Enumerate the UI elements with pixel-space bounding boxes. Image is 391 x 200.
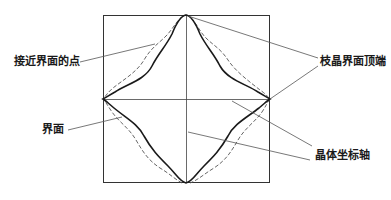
leader-dendrite-tip-right (270, 66, 318, 99)
dendrite-diagram (0, 0, 391, 200)
label-near-interface-point: 接近界面的点 (14, 56, 80, 68)
leader-dendrite-tip-top (188, 16, 318, 58)
leader-crystal-axis-1 (232, 101, 312, 146)
label-dendrite-tip: 枝晶界面顶端 (320, 56, 386, 68)
label-crystal-axis: 晶体坐标轴 (315, 150, 370, 162)
leader-crystal-axis-2 (188, 132, 310, 160)
leader-near-interface-point (80, 44, 155, 62)
label-interface: 界面 (42, 124, 64, 136)
leader-interface (68, 117, 122, 130)
